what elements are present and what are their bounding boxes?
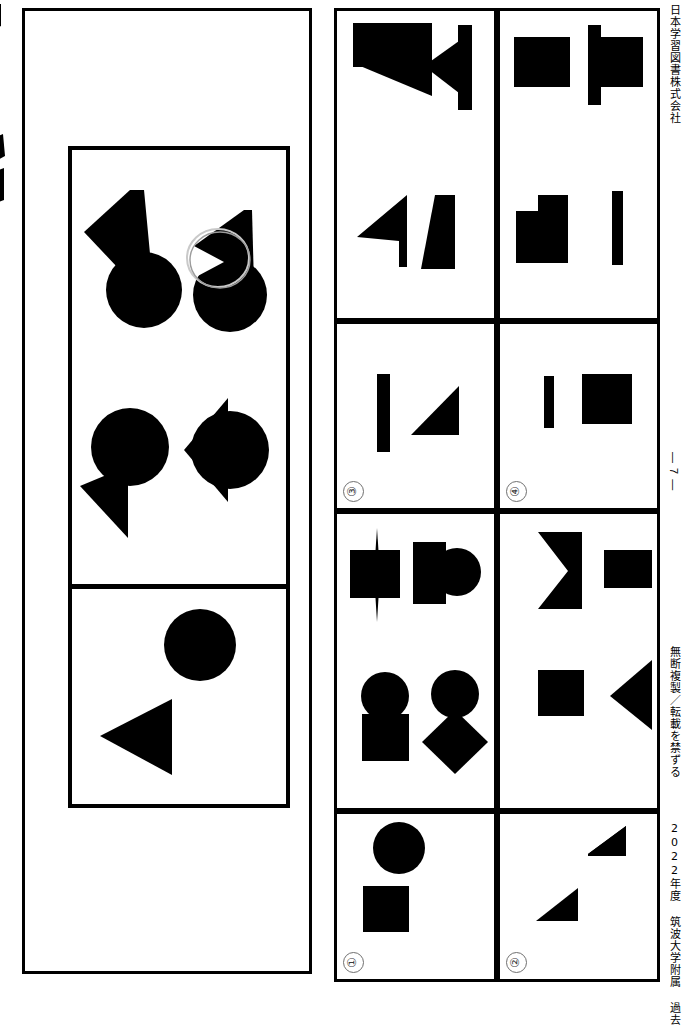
option-number-1: ① — [343, 952, 364, 973]
figure-2 — [193, 210, 267, 332]
figure-1 — [84, 190, 182, 328]
option-cell-2[interactable]: ② — [497, 811, 660, 982]
option-number-4: ④ — [506, 481, 527, 502]
answer-options-grid: ③ ④ — [334, 8, 660, 974]
figure-4 — [184, 398, 269, 502]
copyright-notice: 無断複製／転載を禁ずる — [666, 646, 682, 778]
option-cell-row1-left[interactable] — [334, 8, 497, 321]
option-cell-3[interactable]: ③ — [334, 321, 497, 511]
option-number-2: ② — [506, 952, 527, 973]
option-cell-row1-right[interactable] — [497, 8, 660, 321]
figure-5 — [164, 609, 236, 681]
option-cell-4[interactable]: ④ — [497, 321, 660, 511]
sample-top-figures — [72, 150, 286, 584]
sample-problem-box — [68, 146, 290, 808]
option-cell-row3-right[interactable] — [497, 511, 660, 811]
option-cell-row3-left[interactable] — [334, 511, 497, 811]
cropped-edge-mark — [0, 4, 10, 234]
sample-bottom-figures — [72, 589, 286, 804]
problem-column — [22, 8, 312, 974]
page-number: — 7 — — [668, 452, 680, 491]
publisher-label: 日本学習図書株式会社 — [666, 4, 682, 124]
exam-info-label: 2022年度 筑波大学附属 過去 — [666, 822, 682, 1026]
option-cell-1[interactable]: ① — [334, 811, 497, 982]
figure-3 — [80, 408, 169, 538]
option-number-3: ③ — [343, 481, 364, 502]
figure-6 — [100, 699, 172, 775]
